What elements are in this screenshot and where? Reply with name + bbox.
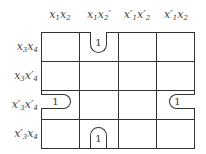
- group-loop-open-left: 1: [41, 94, 71, 109]
- row-header-x3x4: x3x4: [2, 41, 38, 56]
- group-loop-open-top: 1: [90, 32, 107, 53]
- group-loop-open-right: 1: [169, 94, 195, 109]
- column-header-x1x2prime: x1x2′: [80, 9, 118, 24]
- group-loop-open-bottom: 1: [90, 127, 107, 148]
- column-header-x1primex2: x′1x2: [157, 9, 195, 24]
- row-header-x3primex4: x′3x4: [2, 128, 38, 143]
- cell-value: 1: [174, 96, 180, 107]
- column-header-x1primex2prime: x′1x′2: [118, 9, 156, 24]
- grid-divider: [42, 90, 194, 91]
- grid-divider: [42, 61, 194, 62]
- cell-value: 1: [52, 96, 58, 107]
- column-header-x1x2: x1x2: [41, 9, 79, 24]
- grid-divider: [42, 119, 194, 120]
- row-header-x3primex4prime: x′3x′4: [2, 99, 38, 114]
- cell-value: 1: [95, 133, 101, 144]
- cell-value: 1: [95, 37, 101, 48]
- row-header-x3x4prime: x3x′4: [2, 70, 38, 85]
- karnaugh-map-grid: 1 1 1 1: [41, 32, 195, 149]
